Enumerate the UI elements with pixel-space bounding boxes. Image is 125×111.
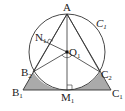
segment-b2c2-left <box>33 52 67 72</box>
right-angle-m1 <box>67 85 72 90</box>
segment-ab2 <box>33 14 67 72</box>
label-circle-c1: C1 <box>96 17 107 31</box>
geometry-diagram: A C1 N1 O1 B2 C2 B1 C1 M1 <box>0 0 125 111</box>
label-c1: C1 <box>112 87 123 101</box>
label-m1: M1 <box>61 91 75 105</box>
label-a: A <box>63 1 71 13</box>
label-o1: O1 <box>69 46 81 60</box>
label-b1: B1 <box>12 86 23 100</box>
label-b2: B2 <box>21 66 32 80</box>
label-c2: C2 <box>101 68 112 82</box>
label-n1: N1 <box>35 31 47 45</box>
